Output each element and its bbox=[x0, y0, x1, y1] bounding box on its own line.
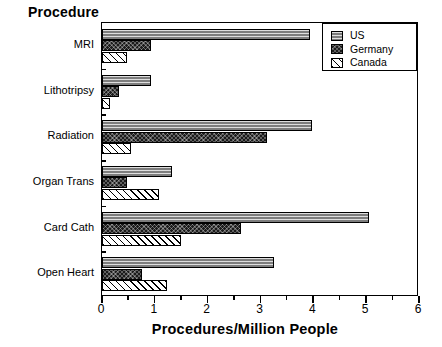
legend-item-canada: Canada bbox=[331, 57, 387, 68]
bar-us-mri bbox=[102, 29, 310, 40]
bar-germany-open-heart bbox=[102, 269, 142, 280]
x-tick-label: 6 bbox=[415, 302, 422, 316]
y-axis-label-radiation: Radiation bbox=[48, 129, 94, 141]
bar-us-card-cath bbox=[102, 212, 369, 223]
legend: USGermanyCanada bbox=[322, 23, 417, 71]
legend-swatch-canada bbox=[331, 58, 343, 68]
y-axis-tick bbox=[101, 69, 106, 71]
bar-germany-mri bbox=[102, 40, 151, 51]
bar-canada-lithotripsy bbox=[102, 98, 110, 109]
legend-swatch-us bbox=[331, 31, 343, 41]
y-axis-tick bbox=[101, 251, 106, 253]
bar-germany-lithotripsy bbox=[102, 86, 119, 97]
bar-group bbox=[102, 120, 417, 154]
y-axis-label-card-cath: Card Cath bbox=[44, 221, 94, 233]
x-axis-minor-tick bbox=[286, 296, 288, 300]
bar-germany-radiation bbox=[102, 132, 267, 143]
x-axis-tick-labels: 0123456 bbox=[101, 302, 418, 318]
x-axis-minor-tick bbox=[392, 296, 394, 300]
y-axis-label-open-heart: Open Heart bbox=[37, 266, 94, 278]
x-axis-minor-tick bbox=[180, 296, 182, 300]
bar-canada-radiation bbox=[102, 143, 131, 154]
x-axis-minor-tick bbox=[233, 296, 235, 300]
legend-label: US bbox=[350, 30, 365, 41]
bar-canada-open-heart bbox=[102, 280, 167, 291]
bar-group bbox=[102, 257, 417, 291]
bar-us-radiation bbox=[102, 120, 312, 131]
y-axis-tick bbox=[101, 114, 106, 116]
bar-us-organ-trans bbox=[102, 166, 172, 177]
legend-swatch-germany bbox=[331, 44, 343, 54]
bar-group bbox=[102, 212, 417, 246]
y-axis-label-lithotripsy: Lithotripsy bbox=[44, 84, 94, 96]
legend-label: Germany bbox=[350, 44, 393, 55]
bar-us-open-heart bbox=[102, 257, 274, 268]
bar-germany-organ-trans bbox=[102, 177, 127, 188]
y-axis-label-organ-trans: Organ Trans bbox=[33, 175, 94, 187]
bar-canada-organ-trans bbox=[102, 189, 159, 200]
bar-group bbox=[102, 166, 417, 200]
bar-chart: Procedure MRILithotripsyRadiationOrgan T… bbox=[0, 0, 442, 347]
legend-item-germany: Germany bbox=[331, 44, 393, 55]
x-tick-label: 0 bbox=[98, 302, 105, 316]
x-axis-title: Procedures/Million People bbox=[0, 321, 442, 337]
legend-label: Canada bbox=[350, 57, 387, 68]
bar-canada-mri bbox=[102, 52, 127, 63]
x-tick-label: 5 bbox=[362, 302, 369, 316]
y-axis-title: Procedure bbox=[28, 4, 99, 20]
bar-group bbox=[102, 75, 417, 109]
x-tick-label: 2 bbox=[203, 302, 210, 316]
y-axis-tick bbox=[101, 206, 106, 208]
x-axis-minor-tick bbox=[339, 296, 341, 300]
bar-us-lithotripsy bbox=[102, 75, 151, 86]
bar-germany-card-cath bbox=[102, 223, 241, 234]
legend-item-us: US bbox=[331, 30, 365, 41]
y-axis-tick bbox=[101, 160, 106, 162]
x-axis-minor-tick bbox=[127, 296, 129, 300]
bar-canada-card-cath bbox=[102, 235, 181, 246]
x-tick-label: 3 bbox=[256, 302, 263, 316]
x-tick-label: 1 bbox=[150, 302, 157, 316]
x-tick-label: 4 bbox=[309, 302, 316, 316]
y-axis-category-labels: MRILithotripsyRadiationOrgan TransCard C… bbox=[0, 22, 96, 296]
y-axis-label-mri: MRI bbox=[74, 38, 94, 50]
